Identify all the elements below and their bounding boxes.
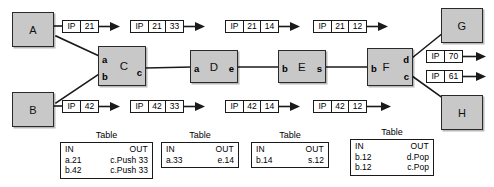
packet-p3-arrow — [279, 21, 301, 32]
node-b-label: B — [13, 104, 53, 116]
packet-p7: IP 42 14 — [225, 100, 279, 113]
node-c-port-c: c — [137, 68, 142, 78]
packet-p10: IP 61 — [426, 70, 463, 83]
node-e-port-s: s — [317, 64, 322, 74]
link-b-to-c — [56, 74, 99, 103]
packet-p9: IP 70 — [426, 50, 463, 63]
table-f-row1-out: c.Pop — [407, 162, 429, 173]
node-f-port-c: c — [404, 72, 409, 82]
table-e-row0-in: b.14 — [256, 155, 273, 166]
packet-p3: IP 21 14 — [225, 20, 279, 33]
packet-p10-arrow — [463, 71, 487, 82]
table-c-header-in: IN — [65, 144, 74, 155]
table-c-header-out: OUT — [129, 144, 148, 155]
packet-p6-field-1: 42 — [149, 101, 166, 112]
node-g[interactable]: G — [441, 8, 483, 43]
table-e: Table IN OUT b.14 s.12 — [251, 131, 329, 168]
packet-p5-field-1: 42 — [81, 101, 98, 112]
node-f[interactable]: F b d c — [367, 48, 413, 86]
packet-p4: IP 21 12 — [313, 20, 367, 33]
packet-p7-field-0: IP — [226, 101, 244, 112]
node-c[interactable]: C a b c — [98, 46, 146, 86]
table-f-header-out: OUT — [410, 141, 429, 152]
packet-p10-field-0: IP — [427, 71, 445, 82]
node-c-port-a: a — [102, 55, 107, 65]
table-e-header-out: OUT — [305, 144, 324, 155]
packet-p6-field-2: 33 — [166, 101, 183, 112]
packet-p2-arrow — [184, 21, 206, 32]
table-f-header-in: IN — [355, 141, 364, 152]
packet-p9-field-1: 70 — [445, 51, 462, 62]
table-c-row0-in: a.21 — [65, 155, 82, 166]
table-f-row0-out: d.Pop — [407, 152, 429, 163]
table-row: b.12 d.Pop — [355, 152, 429, 163]
table-row: b.42 c.Push 33 — [65, 165, 148, 176]
packet-p8-arrow — [367, 101, 392, 112]
table-row: b.12 c.Pop — [355, 162, 429, 173]
packet-p1-arrow — [99, 21, 121, 32]
packet-p3-field-0: IP — [226, 21, 244, 32]
packet-p5-field-0: IP — [63, 101, 81, 112]
packet-p2-field-0: IP — [131, 21, 149, 32]
table-c-box: IN OUT a.21 c.Push 33 b.42 c.Push 33 — [60, 142, 153, 179]
table-e-row0-out: s.12 — [308, 155, 324, 166]
packet-p4-field-0: IP — [314, 21, 332, 32]
packet-p3-field-1: 21 — [244, 21, 261, 32]
table-e-header-in: IN — [256, 144, 265, 155]
link-a-to-c — [56, 36, 99, 56]
packet-p2-field-2: 33 — [166, 21, 183, 32]
link-c-to-d — [146, 67, 191, 68]
table-d-header-in: IN — [166, 144, 175, 155]
node-a-label: A — [13, 24, 53, 36]
node-c-port-b: b — [102, 72, 108, 82]
table-row: a.21 c.Push 33 — [65, 155, 148, 166]
packet-p8-field-1: 42 — [332, 101, 349, 112]
node-f-port-b: b — [371, 64, 377, 74]
packet-p2-field-1: 21 — [149, 21, 166, 32]
packet-p4-arrow — [367, 21, 389, 32]
table-d-header-row: IN OUT — [166, 144, 234, 155]
table-e-box: IN OUT b.14 s.12 — [251, 142, 329, 168]
packet-p4-field-1: 21 — [332, 21, 349, 32]
table-d-row0-out: e.14 — [217, 155, 234, 166]
packet-p2: IP 21 33 — [130, 20, 184, 33]
packet-p8-field-2: 12 — [349, 101, 366, 112]
node-e-port-b: b — [282, 64, 288, 74]
packet-p4-field-2: 12 — [349, 21, 366, 32]
packet-p7-arrow — [279, 101, 301, 112]
table-c-title: Table — [60, 131, 153, 141]
node-d-port-e: e — [229, 64, 234, 74]
packet-p8-field-0: IP — [314, 101, 332, 112]
node-d[interactable]: D a e — [190, 50, 238, 83]
packet-p5-arrow — [99, 101, 121, 112]
table-c-row0-out: c.Push 33 — [110, 155, 148, 166]
node-e[interactable]: E b s — [278, 50, 326, 83]
node-b[interactable]: B — [12, 92, 54, 127]
node-h[interactable]: H — [441, 95, 483, 130]
table-f-row0-in: b.12 — [355, 152, 372, 163]
node-a[interactable]: A — [12, 12, 54, 47]
packet-p1-field-0: IP — [63, 21, 81, 32]
table-f-box: IN OUT b.12 d.Pop b.12 c.Pop — [350, 139, 434, 176]
table-f-header-row: IN OUT — [355, 141, 429, 152]
packet-p6: IP 42 33 — [130, 100, 184, 113]
packet-p1: IP 21 — [62, 20, 99, 33]
table-e-title: Table — [251, 131, 329, 141]
packet-p6-arrow — [184, 101, 206, 112]
node-h-label: H — [442, 107, 482, 119]
table-d-row0-in: a.33 — [166, 155, 183, 166]
packet-p3-field-2: 14 — [261, 21, 278, 32]
table-d-box: IN OUT a.33 e.14 — [161, 142, 239, 168]
packet-p9-arrow — [463, 51, 487, 62]
network-diagram: A B C a b c D a e E b s F b d c G H IP 2… — [0, 0, 494, 187]
table-f-row1-in: b.12 — [355, 162, 372, 173]
table-row: a.33 e.14 — [166, 155, 234, 166]
packet-p7-field-2: 14 — [261, 101, 278, 112]
table-row: b.14 s.12 — [256, 155, 324, 166]
table-d-title: Table — [161, 131, 239, 141]
packet-p7-field-1: 42 — [244, 101, 261, 112]
table-e-header-row: IN OUT — [256, 144, 324, 155]
table-c-header-row: IN OUT — [65, 144, 148, 155]
table-c-row1-in: b.42 — [65, 165, 82, 176]
node-g-label: G — [442, 20, 482, 32]
